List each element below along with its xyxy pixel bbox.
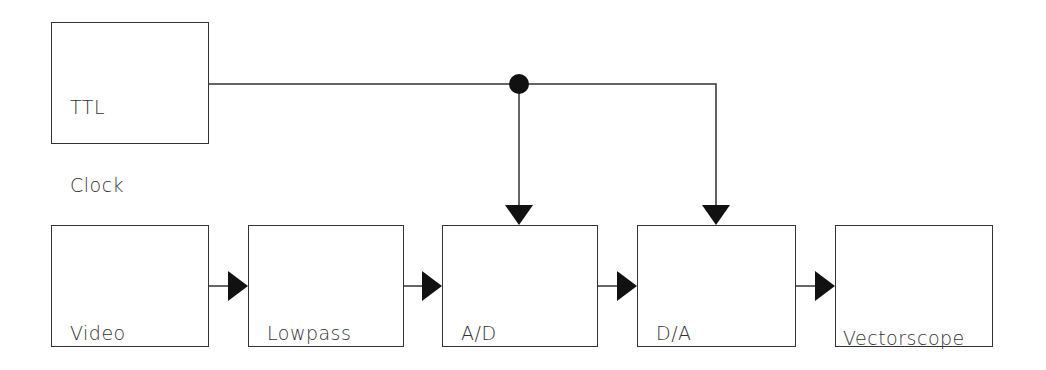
ad-converter-block: A/D Converter — [442, 225, 598, 347]
block-label-line: Lowpass — [267, 320, 351, 346]
video-generator-block: Video Generator — [51, 225, 209, 347]
da-converter-block: D/A Converter — [637, 225, 796, 347]
block-label-line: D/A — [656, 320, 755, 346]
block-label-line: Clock — [70, 172, 171, 198]
vectorscope-block: Vectorscope — [835, 225, 993, 347]
ttl-clock-generator-block: TTL Clock Generator — [51, 22, 209, 144]
junction-dot — [509, 74, 529, 94]
lowpass-filter-block: Lowpass Filter — [248, 225, 404, 347]
block-label-line: TTL — [70, 94, 171, 120]
arrowhead-video-lowpass — [228, 271, 248, 301]
arrowhead-adc-dac — [617, 271, 637, 301]
arrowhead-clock-dac — [702, 205, 730, 225]
block-label-line: Video — [70, 320, 171, 346]
arrowhead-lowpass-adc — [422, 271, 442, 301]
block-label-line: Vectorscope — [843, 325, 965, 351]
arrowhead-dac-vectorscope — [815, 271, 835, 301]
block-label-line: A/D — [461, 320, 560, 346]
clock-bus-line — [209, 84, 716, 206]
arrowhead-clock-adc — [505, 205, 533, 225]
